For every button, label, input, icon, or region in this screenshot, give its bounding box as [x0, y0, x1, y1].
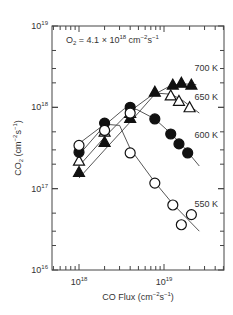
x-axis-label: CO Flux (cm−2s−1)	[102, 291, 174, 302]
y-tick-1e19: 1019	[31, 20, 48, 31]
series-label-650k: 650 K	[194, 92, 218, 102]
series-label-700k: 700 K	[194, 63, 218, 73]
y-tick-1e18: 1018	[31, 101, 48, 112]
y-tick-1e16: 1016	[31, 264, 48, 275]
x-tick-1e19: 1019	[156, 276, 173, 287]
chart: O2 = 4.1 × 1018 cm−2s−1 700 K 650 K 600 …	[0, 0, 233, 315]
data-markers	[74, 77, 197, 229]
y-axis-label: CO2 (cm−2s−1)	[12, 120, 24, 176]
series-label-600k: 600 K	[194, 130, 218, 140]
series-label-550k: 550 K	[194, 199, 218, 209]
x-tick-1e18: 1018	[71, 276, 88, 287]
y-tick-1e17: 1017	[31, 183, 48, 194]
o2-annotation: O2 = 4.1 × 1018 cm−2s−1	[66, 34, 159, 46]
